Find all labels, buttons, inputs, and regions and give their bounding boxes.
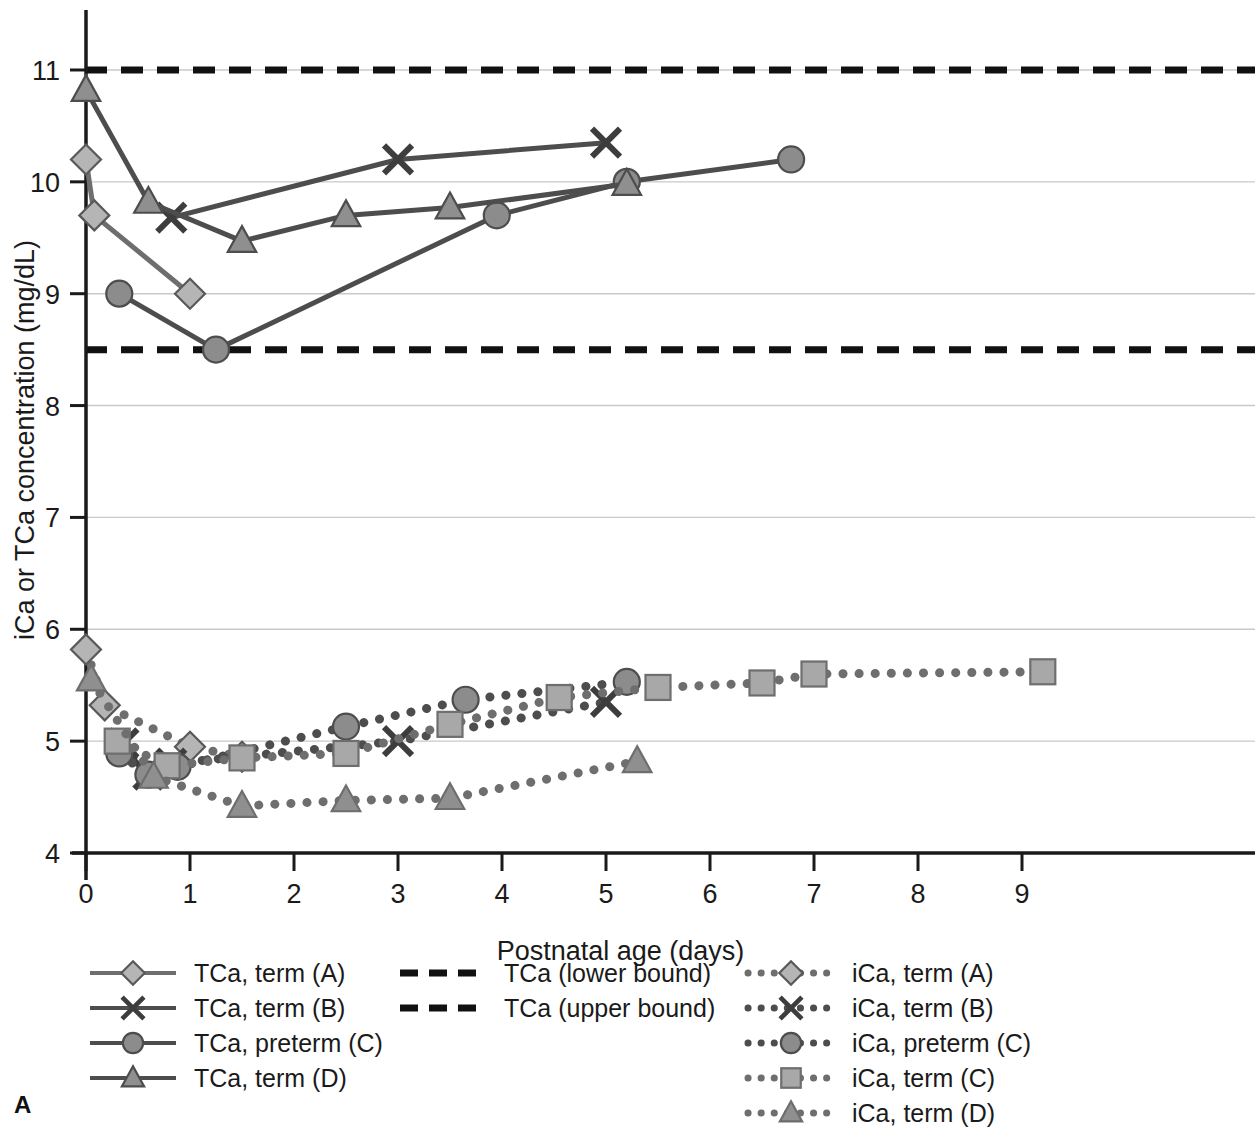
- y-tick-label: 4: [45, 839, 60, 869]
- data-point-square-marker: [1030, 659, 1055, 684]
- legend-item[interactable]: TCa (lower bound): [400, 959, 711, 987]
- y-tick-label: 5: [45, 727, 60, 757]
- data-point-square-marker: [547, 685, 572, 710]
- legend-label: iCa, preterm (C): [852, 1029, 1031, 1057]
- y-tick-label: 7: [45, 503, 60, 533]
- data-point-square-marker: [750, 670, 775, 695]
- legend-label: iCa, term (A): [852, 959, 994, 987]
- data-point-square-marker: [230, 745, 255, 770]
- y-tick-label: 8: [45, 392, 60, 422]
- y-tick-label: 9: [45, 280, 60, 310]
- legend-label: TCa, preterm (C): [194, 1029, 383, 1057]
- y-tick-label: 11: [32, 56, 60, 86]
- data-point-square-marker: [781, 1068, 801, 1088]
- legend-label: TCa, term (A): [194, 959, 345, 987]
- legend-item[interactable]: iCa, preterm (C): [748, 1029, 1031, 1057]
- legend-label: iCa, term (D): [852, 1099, 995, 1127]
- legend-item[interactable]: TCa (upper bound): [400, 994, 715, 1022]
- data-point-diamond-marker: [779, 961, 802, 984]
- legend-label: TCa, term (D): [194, 1064, 347, 1092]
- legend-item[interactable]: iCa, term (A): [748, 959, 994, 987]
- data-point-diamond-marker: [71, 144, 101, 174]
- data-point-circle-marker: [106, 281, 132, 307]
- series-group: [106, 146, 804, 362]
- data-point-diamond-marker: [71, 634, 101, 664]
- x-tick-label: 7: [806, 879, 821, 909]
- legend-label: iCa, term (B): [852, 994, 994, 1022]
- x-tick-label: 8: [910, 879, 925, 909]
- panel-letter-label: A: [14, 1091, 31, 1118]
- legend-item[interactable]: TCa, term (A): [90, 959, 345, 987]
- data-point-circle-marker: [453, 687, 479, 713]
- legend-label: iCa, term (C): [852, 1064, 995, 1092]
- data-series: [71, 75, 1055, 817]
- y-tick-label: 10: [30, 168, 60, 198]
- data-point-triangle-marker: [228, 791, 257, 817]
- data-point-diamond-marker: [121, 961, 144, 984]
- data-point-circle-marker: [778, 146, 804, 172]
- series-group: [71, 144, 205, 308]
- legend-item[interactable]: TCa, preterm (C): [90, 1029, 383, 1057]
- legend-item[interactable]: iCa, term (B): [748, 994, 994, 1022]
- data-point-square-marker: [646, 675, 671, 700]
- legend-item[interactable]: iCa, term (D): [748, 1099, 995, 1127]
- x-tick-label: 6: [702, 879, 717, 909]
- x-axis-ticks: 0123456789: [78, 853, 1029, 909]
- data-point-square-marker: [334, 741, 359, 766]
- y-tick-label: 6: [45, 615, 60, 645]
- data-point-circle-marker: [781, 1033, 801, 1053]
- data-point-square-marker: [802, 662, 827, 687]
- legend-label: TCa, term (B): [194, 994, 345, 1022]
- legend-item[interactable]: TCa, term (D): [90, 1064, 347, 1092]
- series-line: [119, 159, 791, 349]
- data-point-circle-marker: [484, 202, 510, 228]
- chart-legend: TCa, term (A)TCa, term (B)TCa, preterm (…: [90, 959, 1031, 1127]
- y-axis-title: iCa or TCa concentration (mg/dL): [10, 240, 40, 640]
- series-group: [157, 129, 620, 232]
- line-chart: 4567891011 0123456789 Postnatal age (day…: [0, 0, 1255, 1129]
- data-point-square-marker: [438, 712, 463, 737]
- series-group: [105, 659, 1056, 778]
- legend-label: TCa (upper bound): [504, 994, 715, 1022]
- x-tick-label: 5: [598, 879, 613, 909]
- reference-lines: [85, 70, 1255, 350]
- data-point-circle-marker: [123, 1033, 143, 1053]
- x-tick-label: 9: [1014, 879, 1029, 909]
- data-point-triangle-marker: [134, 187, 163, 213]
- x-tick-label: 4: [494, 879, 509, 909]
- x-tick-label: 3: [390, 879, 405, 909]
- data-point-circle-marker: [203, 337, 229, 363]
- legend-item[interactable]: TCa, term (B): [90, 994, 345, 1022]
- x-tick-label: 2: [286, 879, 301, 909]
- x-tick-label: 1: [182, 879, 197, 909]
- data-point-circle-marker: [333, 714, 359, 740]
- figure-panel-a: 4567891011 0123456789 Postnatal age (day…: [0, 0, 1255, 1129]
- panel-label: A: [14, 1091, 31, 1118]
- grid-lines: [86, 70, 1255, 741]
- series-group: [72, 75, 641, 252]
- data-point-triangle-marker: [623, 746, 652, 772]
- legend-item[interactable]: iCa, term (C): [748, 1064, 995, 1092]
- data-point-triangle-marker: [436, 783, 465, 809]
- data-point-triangle-marker: [77, 665, 106, 691]
- legend-label: TCa (lower bound): [504, 959, 711, 987]
- x-tick-label: 0: [78, 879, 93, 909]
- data-point-triangle-marker: [72, 75, 101, 101]
